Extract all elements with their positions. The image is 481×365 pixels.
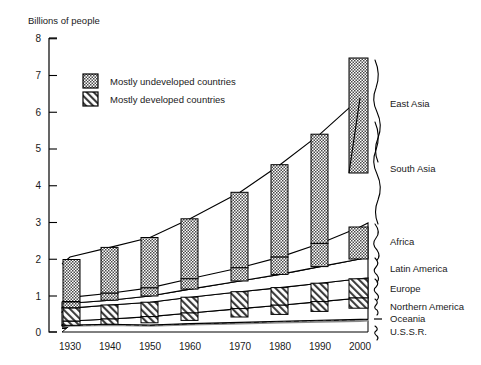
brace-africa <box>374 224 379 260</box>
brace-ussr <box>375 326 378 340</box>
label-ussr: U.S.S.R. <box>390 326 427 337</box>
bar-latin-america-1960 <box>181 279 198 289</box>
y-tick-7: 7 <box>35 70 41 81</box>
chart-svg: Billions of people 8 7 6 5 4 3 2 1 0 <box>0 0 481 365</box>
decade-bars-1930 <box>63 260 80 326</box>
population-growth-chart: Billions of people 8 7 6 5 4 3 2 1 0 <box>0 0 481 365</box>
x-tick-1960: 1960 <box>179 341 202 352</box>
decade-bars-1960 <box>181 219 198 321</box>
bar-east-asia-1950 <box>141 238 158 288</box>
y-axis-title: Billions of people <box>28 15 100 26</box>
legend-label-undeveloped: Mostly undeveloped countries <box>110 76 236 87</box>
bar-northern-america-1960 <box>181 313 198 320</box>
bar-europe-1960 <box>181 297 198 313</box>
bar-latin-america-1930 <box>63 302 80 308</box>
bar-europe-1940 <box>101 305 118 319</box>
legend-swatch-developed <box>83 92 98 106</box>
bar-europe-1980 <box>271 288 288 306</box>
bar-northern-america-1990 <box>311 302 328 312</box>
bar-northern-america-2000 <box>349 298 368 308</box>
legend: Mostly undeveloped countries Mostly deve… <box>83 74 236 106</box>
bar-east-asia-1990 <box>311 134 328 243</box>
y-tick-5: 5 <box>35 143 41 154</box>
bar-latin-america-1970 <box>231 268 248 281</box>
x-tick-1990: 1990 <box>309 341 332 352</box>
decade-bars-1940 <box>101 247 118 324</box>
label-south-asia: South Asia <box>390 163 436 174</box>
x-tick-1930: 1930 <box>59 341 82 352</box>
label-africa: Africa <box>390 236 415 247</box>
bar-europe-1970 <box>231 292 248 309</box>
y-tick-4: 4 <box>35 180 41 191</box>
label-latin-america: Latin America <box>390 263 448 274</box>
legend-swatch-undeveloped <box>83 74 98 88</box>
brace-europe <box>374 279 378 300</box>
brace-latin-america <box>374 258 378 282</box>
decade-bars-1980 <box>271 165 288 315</box>
bar-east-asia-1940 <box>101 247 118 293</box>
brace-northern-america <box>375 299 378 315</box>
bar-east-asia-1980 <box>271 165 288 257</box>
x-tick-1980: 1980 <box>269 341 292 352</box>
label-east-asia: East Asia <box>390 98 430 109</box>
bar-northern-america-1970 <box>231 309 248 317</box>
region-annotations: East Asia South Asia Africa Latin Americ… <box>374 60 465 340</box>
decade-bars-1970 <box>231 192 248 317</box>
bar-northern-america-1940 <box>101 319 118 324</box>
y-tick-6: 6 <box>35 107 41 118</box>
bar-europe-2000 <box>349 279 368 298</box>
x-tick-1940: 1940 <box>99 341 122 352</box>
bar-east-asia-1960 <box>181 219 198 279</box>
bar-east-asia-1930 <box>63 260 80 302</box>
bar-europe-1990 <box>311 283 328 301</box>
label-oceania: Oceania <box>390 313 426 324</box>
y-axis: 8 7 6 5 4 3 2 1 0 <box>35 33 57 338</box>
bar-europe-1930 <box>63 308 80 321</box>
brace-south-asia <box>374 122 381 224</box>
x-tick-1950: 1950 <box>139 341 162 352</box>
bar-east-asia-1970 <box>231 192 248 267</box>
decade-bars-1990 <box>311 134 328 311</box>
bar-africa-2000 <box>349 227 368 259</box>
decade-bars-1950 <box>141 238 158 323</box>
label-northern-america: Northern America <box>390 301 465 312</box>
y-tick-1: 1 <box>35 291 41 302</box>
bar-latin-america-1980 <box>271 257 288 274</box>
bar-latin-america-1940 <box>101 293 118 300</box>
label-europe: Europe <box>390 283 421 294</box>
legend-label-developed: Mostly developed countries <box>110 94 225 105</box>
bar-northern-america-1980 <box>271 305 288 314</box>
y-tick-3: 3 <box>35 217 41 228</box>
bar-northern-america-1950 <box>141 317 158 323</box>
y-tick-0: 0 <box>35 327 41 338</box>
x-tick-2000: 2000 <box>349 341 372 352</box>
bar-latin-america-1990 <box>311 243 328 266</box>
bar-latin-america-1950 <box>141 288 158 296</box>
bar-europe-1950 <box>141 302 158 316</box>
bar-northern-america-1930 <box>63 321 80 325</box>
y-tick-8: 8 <box>35 33 41 44</box>
x-tick-1970: 1970 <box>229 341 252 352</box>
y-tick-2: 2 <box>35 254 41 265</box>
